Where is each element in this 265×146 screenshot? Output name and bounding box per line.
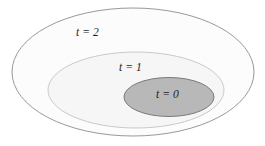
level-set-figure: t = 2 t = 1 t = 0 <box>0 0 265 146</box>
label-t-equals-0: t = 0 <box>156 89 179 101</box>
label-t-equals-2: t = 2 <box>76 27 99 39</box>
label-t-equals-1: t = 1 <box>119 62 142 74</box>
